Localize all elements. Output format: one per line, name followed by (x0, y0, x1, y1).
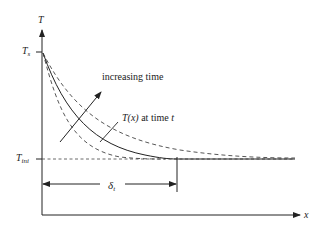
ts-label: Ts (22, 45, 31, 58)
profile-label: T(x) at time t (122, 112, 174, 124)
increasing-time-label: increasing time (102, 71, 164, 82)
profile-curve-earlier (43, 53, 165, 159)
profile-label-pointer (100, 122, 118, 142)
penetration-depth-label: δt (108, 179, 116, 193)
increasing-time-arrow (60, 92, 101, 142)
y-axis-label: T (38, 14, 45, 25)
profile-curve-later (43, 53, 295, 158)
diagram-canvas: T x Ts Tini increasing time T(x) at time… (0, 0, 321, 230)
tini-label: Tini (16, 152, 29, 165)
x-axis-label: x (303, 209, 309, 220)
